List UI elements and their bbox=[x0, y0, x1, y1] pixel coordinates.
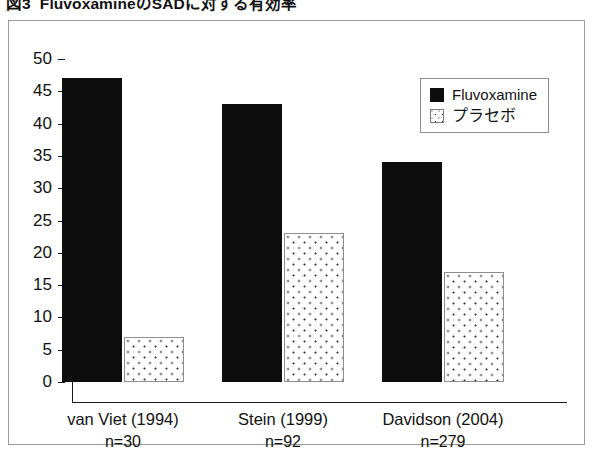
bar-fluvoxamine bbox=[382, 162, 442, 382]
y-axis-tick-label: 30 bbox=[9, 179, 52, 196]
y-axis-tick-label: 25 bbox=[9, 212, 52, 229]
x-axis-line bbox=[72, 402, 567, 403]
legend-item-label: Fluvoxamine bbox=[452, 87, 537, 102]
y-axis-tick bbox=[58, 382, 65, 383]
y-axis-tick-label: 45 bbox=[9, 82, 52, 99]
solid-black-square-icon bbox=[430, 88, 444, 102]
figure-caption: 図3FluvoxamineのSADに対する有効率 bbox=[6, 0, 298, 13]
bar-placebo bbox=[124, 337, 184, 382]
y-axis-tick-label: 35 bbox=[9, 147, 52, 164]
y-axis-tick-label: 0 bbox=[9, 373, 52, 390]
category-label: Stein (1999)n=92 bbox=[208, 409, 358, 452]
legend-item: Fluvoxamine bbox=[430, 84, 537, 105]
category-label-text: Davidson (2004) bbox=[382, 410, 503, 428]
bar-placebo bbox=[284, 233, 344, 382]
category-sample-size: n=30 bbox=[48, 431, 198, 452]
y-axis-tick-label: 10 bbox=[9, 308, 52, 325]
category-sample-size: n=92 bbox=[208, 431, 358, 452]
bar-placebo bbox=[444, 272, 504, 382]
bar-fluvoxamine bbox=[222, 104, 282, 382]
y-axis-tick-label: 5 bbox=[9, 341, 52, 358]
bar-fluvoxamine bbox=[62, 78, 122, 382]
dotted-white-square-icon bbox=[430, 109, 444, 123]
y-axis-tick-label: 20 bbox=[9, 244, 52, 261]
category-label-text: van Viet (1994) bbox=[67, 410, 179, 428]
category-label: Davidson (2004)n=279 bbox=[368, 409, 518, 452]
chart-frame: 05101520253035404550 van Viet (1994)n=30… bbox=[8, 20, 585, 445]
category-label-text: Stein (1999) bbox=[238, 410, 328, 428]
legend-item-label: プラセボ bbox=[452, 108, 516, 124]
figure-number: 図3 bbox=[6, 0, 31, 12]
y-axis-tick-label: 50 bbox=[9, 50, 52, 67]
figure-caption-text: FluvoxamineのSADに対する有効率 bbox=[40, 0, 298, 12]
category-sample-size: n=279 bbox=[368, 431, 518, 452]
y-axis-tick-label: 40 bbox=[9, 115, 52, 132]
y-axis-tick bbox=[58, 59, 65, 60]
chart-legend: Fluvoxamineプラセボ bbox=[420, 78, 549, 133]
legend-item: プラセボ bbox=[430, 105, 537, 126]
category-label: van Viet (1994)n=30 bbox=[48, 409, 198, 452]
y-axis-tick-label: 15 bbox=[9, 276, 52, 293]
